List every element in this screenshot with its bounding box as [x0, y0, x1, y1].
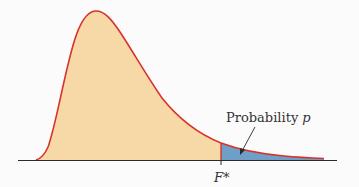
- tail-probability-label: Probability p: [226, 110, 311, 125]
- critical-value-label: F*: [213, 170, 230, 185]
- f-distribution-diagram: Probability p F*: [0, 0, 359, 187]
- annotation-arrow: [242, 127, 255, 151]
